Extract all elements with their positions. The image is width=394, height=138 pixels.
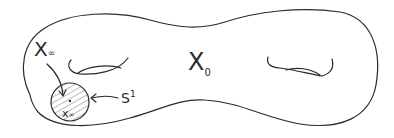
arrow-s1-to-boundary bbox=[92, 96, 118, 98]
point-x-infinity bbox=[69, 100, 71, 102]
label-x-infinity-region: X∞ bbox=[34, 39, 55, 59]
left-handle-hole-inner bbox=[78, 66, 121, 73]
label-s1-main: S bbox=[121, 90, 130, 106]
label-x-zero-region: X0 bbox=[188, 50, 211, 74]
label-x-zero-main: X bbox=[188, 48, 204, 76]
label-x-infinity-main: X bbox=[34, 37, 48, 61]
label-point-x-infinity: x∞ bbox=[62, 104, 74, 120]
right-handle-hole bbox=[268, 57, 333, 76]
label-x-zero-sub: 0 bbox=[204, 67, 210, 78]
label-s1-sup: 1 bbox=[130, 89, 136, 99]
label-s1: S1 bbox=[121, 90, 136, 106]
label-x-infinity-sub: ∞ bbox=[48, 48, 56, 58]
label-point-sub: ∞ bbox=[69, 111, 75, 119]
